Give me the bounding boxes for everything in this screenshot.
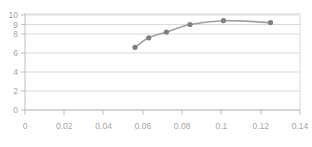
x-axis-tick-label: 0.06 — [135, 122, 152, 131]
x-axis-tick-label: 0.08 — [174, 122, 191, 131]
data-point — [221, 18, 226, 23]
gridlines-group — [25, 15, 300, 110]
y-axis-tick-label: 0 — [0, 106, 18, 115]
y-axis-tick-label: 4 — [0, 68, 18, 77]
y-axis-tick-label: 9 — [0, 20, 18, 29]
x-axis-tick-label: 0.04 — [95, 122, 112, 131]
y-axis-tick-label: 2 — [0, 87, 18, 96]
data-point — [164, 29, 169, 34]
chart-container: 02468910 00.020.040.060.080.10.120.14 — [0, 0, 312, 147]
x-axis-tick-label: 0.12 — [252, 122, 269, 131]
data-point — [268, 20, 273, 25]
x-axis-ticks-group — [25, 110, 300, 115]
axis-group — [25, 13, 300, 111]
data-point — [146, 35, 151, 40]
y-axis-tick-label: 8 — [0, 30, 18, 39]
x-axis-tick-label: 0.1 — [215, 122, 227, 131]
x-axis-tick-label: 0 — [23, 122, 28, 131]
y-axis-tick-label: 6 — [0, 49, 18, 58]
data-point — [132, 45, 137, 50]
data-point — [187, 22, 192, 27]
y-axis-tick-label: 10 — [0, 11, 18, 20]
y-axis-ticks-group — [21, 15, 25, 110]
x-axis-tick-label: 0.02 — [56, 122, 73, 131]
x-axis-tick-label: 0.14 — [292, 122, 309, 131]
